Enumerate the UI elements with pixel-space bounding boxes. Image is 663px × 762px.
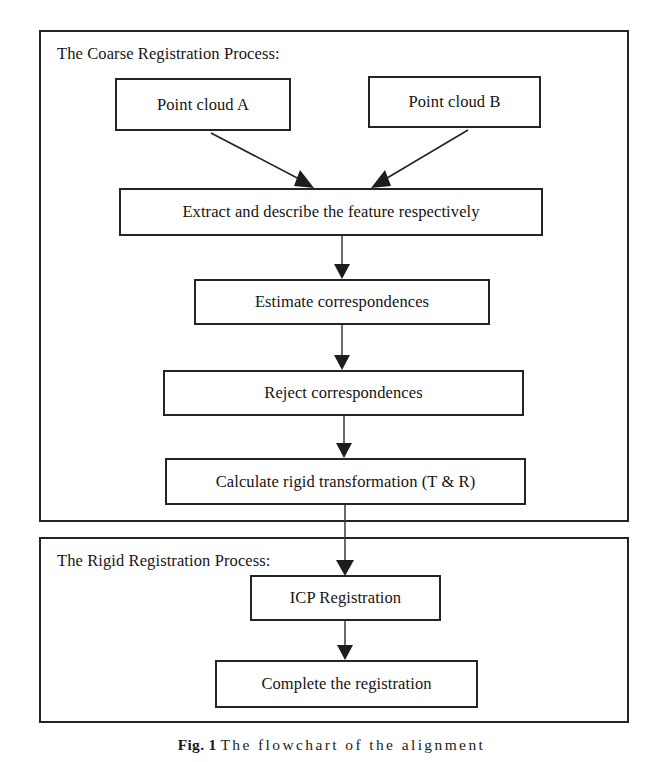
node-reject-correspondences: Reject correspondences [163, 370, 524, 416]
node-calculate-rigid-transformation: Calculate rigid transformation (T & R) [165, 458, 526, 505]
figure-caption: Fig. 1 The flowchart of the alignment [0, 736, 663, 754]
node-point-cloud-b: Point cloud B [368, 76, 541, 128]
node-point-cloud-a: Point cloud A [115, 78, 291, 131]
figure-caption-label: Fig. 1 [178, 736, 217, 753]
node-extract-describe-feature: Extract and describe the feature respect… [119, 188, 543, 236]
panel-rigid-title: The Rigid Registration Process: [57, 551, 270, 571]
node-estimate-correspondences: Estimate correspondences [194, 279, 490, 325]
node-complete-registration: Complete the registration [215, 660, 478, 708]
figure-caption-text: The flowchart of the alignment [220, 736, 485, 753]
node-icp-registration: ICP Registration [250, 575, 441, 621]
figure-canvas: The Coarse Registration Process: The Rig… [0, 0, 663, 762]
panel-coarse-title: The Coarse Registration Process: [57, 44, 280, 64]
